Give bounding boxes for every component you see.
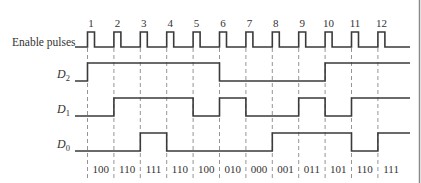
pulse-number: 4 [167,17,173,29]
enable-pulses-label: Enable pulses [12,36,76,49]
state-label: 110 [119,163,136,175]
d2-waveform [75,63,410,81]
state-label: 101 [330,163,347,175]
d0-label-main: D [56,137,66,151]
d0-label-sub: 0 [66,143,70,153]
d1-label: D1 [56,102,70,118]
pulse-number: 2 [115,17,121,29]
d1-label-main: D [56,102,66,116]
pulse-number: 3 [141,17,147,29]
state-label: 001 [277,163,294,175]
pulse-number: 9 [299,17,305,29]
state-label: 111 [383,163,399,175]
pulse-number: 8 [273,17,279,29]
clock-gridlines [88,48,378,180]
state-label: 000 [251,163,268,175]
pulse-number-labels: 123456789101112 [88,17,387,29]
d1-waveform [75,98,410,116]
enable-pulses-waveform [75,32,410,47]
d2-label-sub: 2 [66,73,70,83]
pulse-number: 11 [350,17,361,29]
pulse-number: 10 [323,17,335,29]
d1-label-sub: 1 [66,108,70,118]
state-label: 011 [304,163,320,175]
d0-label: D0 [56,137,70,153]
pulse-number: 12 [376,17,387,29]
pulse-number: 5 [194,17,200,29]
pulse-number: 1 [88,17,94,29]
pulse-number: 7 [247,17,253,29]
state-label: 110 [172,163,189,175]
state-label: 100 [198,163,215,175]
state-label: 100 [92,163,109,175]
timing-diagram: 123456789101112 Enable pulses D2 D1 D0 1… [0,0,421,183]
d2-label: D2 [56,67,70,83]
d2-label-main: D [56,67,66,81]
pulse-number: 6 [220,17,226,29]
d0-waveform [75,133,410,151]
state-label: 110 [357,163,374,175]
state-label: 010 [224,163,241,175]
state-label: 111 [146,163,162,175]
